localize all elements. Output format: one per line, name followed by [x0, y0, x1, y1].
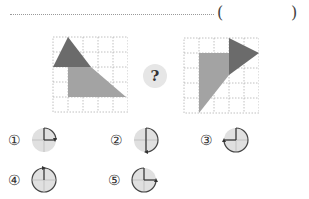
- rotated-shape-figure: [183, 37, 259, 115]
- rotation-dial-90-cw-icon: [30, 126, 58, 154]
- option-3[interactable]: ③: [200, 126, 250, 154]
- question-mark-badge: ?: [143, 64, 167, 88]
- option-2[interactable]: ②: [110, 126, 160, 154]
- rotation-dial-270-ccw-icon: [130, 166, 158, 194]
- option-number: ①: [8, 132, 30, 148]
- option-number: ⑤: [108, 172, 130, 188]
- answer-leader-line: [10, 14, 214, 15]
- option-4[interactable]: ④: [8, 166, 58, 194]
- dark-region: [53, 37, 91, 67]
- option-number: ②: [110, 132, 132, 148]
- rotation-dial-360-icon: [30, 166, 58, 194]
- rotation-dial-270-cw-icon: [222, 126, 250, 154]
- option-1[interactable]: ①: [8, 126, 58, 154]
- option-number: ④: [8, 172, 30, 188]
- option-number: ③: [200, 132, 222, 148]
- option-5[interactable]: ⑤: [108, 166, 158, 194]
- answer-blank-close: ): [291, 3, 297, 22]
- original-shape-figure: [52, 36, 128, 114]
- rotation-dial-180-cw-icon: [132, 126, 160, 154]
- answer-blank[interactable]: [225, 4, 287, 24]
- answer-blank-open: (: [217, 3, 223, 22]
